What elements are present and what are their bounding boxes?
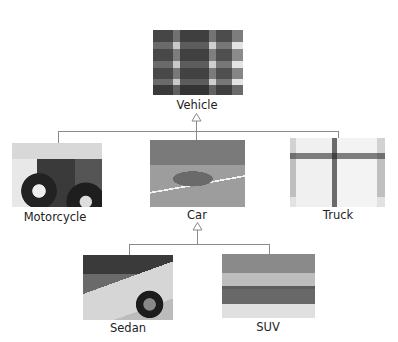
vehicle-image bbox=[153, 30, 243, 95]
sedan-image bbox=[83, 255, 173, 320]
suv-label: SUV bbox=[213, 320, 323, 334]
connector-line bbox=[197, 230, 198, 244]
motorcycle-label: Motorcycle bbox=[0, 210, 110, 224]
motorcycle-image bbox=[12, 143, 102, 207]
connector-line bbox=[58, 131, 339, 132]
connector-line bbox=[129, 244, 130, 255]
suv-image bbox=[222, 254, 315, 318]
vehicle-label: Vehicle bbox=[142, 98, 252, 112]
connector-line bbox=[269, 244, 270, 254]
truck-image bbox=[290, 138, 385, 207]
truck-label: Truck bbox=[283, 208, 393, 222]
car-image bbox=[150, 140, 245, 207]
car-label: Car bbox=[142, 208, 252, 222]
connector-line bbox=[129, 244, 270, 245]
sedan-label: Sedan bbox=[73, 321, 183, 335]
